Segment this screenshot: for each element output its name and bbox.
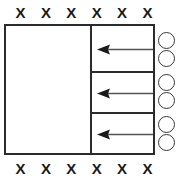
marker-x-icon: X: [116, 160, 129, 177]
marker-x-icon: X: [90, 4, 103, 21]
circle-icon: [158, 32, 175, 49]
marker-x-icon: X: [14, 4, 27, 21]
marker-x-icon: X: [141, 4, 154, 21]
marker-x-icon: X: [65, 160, 78, 177]
flow-cell: [92, 73, 153, 112]
left-arrow-icon: [92, 88, 153, 99]
left-arrow-icon: [92, 44, 153, 55]
circle-icon: [158, 134, 175, 151]
circle-icon: [158, 92, 175, 109]
circle-icon: [158, 50, 175, 67]
circle-column: [157, 30, 177, 152]
diagram-canvas: X X X X X X: [0, 0, 177, 180]
flow-cell: [92, 114, 153, 153]
top-marker-row: X X X X X X: [14, 4, 154, 21]
marker-x-icon: X: [39, 160, 52, 177]
vessel-rectangle: [4, 24, 155, 155]
marker-x-icon: X: [65, 4, 78, 21]
marker-x-icon: X: [14, 160, 27, 177]
marker-x-icon: X: [90, 160, 103, 177]
circle-icon: [158, 116, 175, 133]
marker-x-icon: X: [116, 4, 129, 21]
flow-cell: [92, 26, 153, 71]
left-chamber: [6, 26, 90, 153]
left-arrow-icon: [92, 129, 153, 140]
marker-x-icon: X: [141, 160, 154, 177]
circle-icon: [158, 74, 175, 91]
bottom-marker-row: X X X X X X: [14, 160, 154, 177]
marker-x-icon: X: [39, 4, 52, 21]
